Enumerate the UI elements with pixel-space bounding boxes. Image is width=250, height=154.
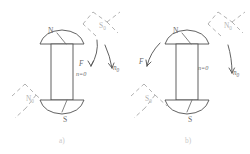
force-label-b: F [138,58,144,66]
magnet-a-top-pole-label: N [48,26,54,35]
panel-a-caption: a) [59,136,65,145]
magnet-b-top-pole-label: N [173,26,179,35]
figure-background [0,0,250,154]
magnet-a-bottom-pole-label: S [63,115,67,124]
panel-b-caption: b) [185,136,192,145]
normal-zero-label-a: n=0 [76,70,87,77]
normal-zero-label-b: n=0 [198,64,209,71]
force-label-a: F [78,60,84,68]
figure-root: S0 N0 N S [0,0,250,154]
magnet-a-shaft [51,44,73,100]
magnet-b-bottom-pole-label: S [188,115,192,124]
physics-figure: S0 N0 N S [0,0,250,154]
magnet-b-shaft [176,44,198,100]
